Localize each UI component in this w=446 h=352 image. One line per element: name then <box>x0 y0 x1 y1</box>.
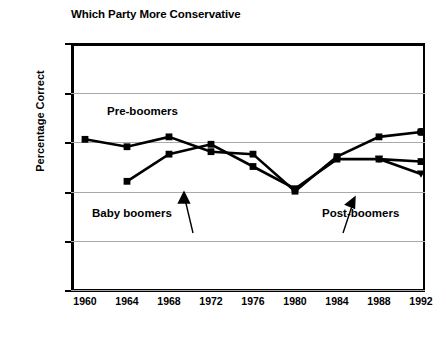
chart-container: Which Party More Conservative Percentage… <box>0 0 446 352</box>
data-point <box>250 151 257 158</box>
data-point <box>124 178 131 185</box>
annotation-baby-boomers: Baby boomers <box>92 207 172 219</box>
data-point <box>250 163 257 170</box>
y-axis-label: Percentage Correct <box>34 41 46 201</box>
data-point <box>124 143 131 150</box>
data-point <box>208 141 215 148</box>
data-point <box>208 148 215 155</box>
chart-title: Which Party More Conservative <box>71 8 241 20</box>
data-point <box>417 128 425 136</box>
series-baby-boomers <box>124 141 425 192</box>
annotation-post-boomers: Post-boomers <box>322 207 399 219</box>
series-layer <box>71 43 425 291</box>
line-pre-boomers <box>85 132 421 191</box>
x-tick-label-1992: 1992 <box>391 295 446 307</box>
data-point <box>82 136 89 143</box>
plot-area: 0 20 40 60 80 100 1960 1964 1968 1972 19… <box>71 43 425 291</box>
data-point <box>166 133 173 140</box>
data-point <box>334 156 341 163</box>
data-point <box>376 133 383 140</box>
data-point <box>418 158 425 165</box>
data-point <box>166 151 173 158</box>
annotation-pre-boomers: Pre-boomers <box>107 105 178 117</box>
data-point <box>292 185 299 192</box>
series-pre-boomers <box>82 128 425 195</box>
